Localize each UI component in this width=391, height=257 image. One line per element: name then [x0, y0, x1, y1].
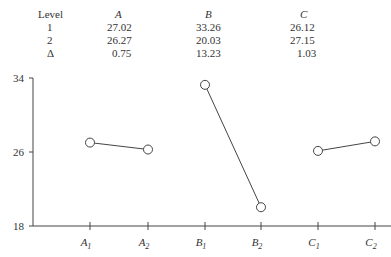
series-b [201, 80, 266, 211]
data-point-marker [86, 138, 95, 147]
series-c [314, 137, 380, 156]
data-point-marker [371, 137, 380, 146]
x-tick-label: B1 [196, 236, 207, 251]
x-tick-label: C1 [308, 236, 319, 251]
data-point-marker [144, 145, 153, 154]
x-tick-label: B2 [252, 236, 263, 251]
data-point-marker [257, 203, 266, 212]
data-point-marker [314, 146, 323, 155]
y-tick-label: 18 [13, 220, 25, 232]
x-tick-label: C2 [365, 236, 376, 251]
x-tick-label: A1 [80, 236, 92, 251]
y-tick-label: 34 [13, 72, 25, 84]
data-point-marker [201, 80, 210, 89]
series-a [86, 138, 153, 154]
y-tick-label: 26 [13, 146, 25, 158]
main-effects-plot: 182634 A1A2B1B2C1C2 [0, 0, 391, 257]
x-tick-label: A2 [138, 236, 150, 251]
